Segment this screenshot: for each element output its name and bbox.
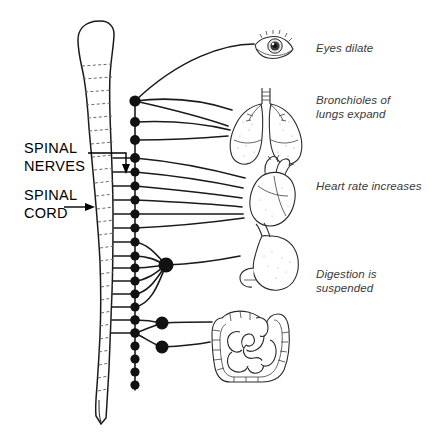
ganglion [130, 167, 139, 176]
lungs-label-line2: lungs expand [316, 108, 386, 120]
ganglion [130, 117, 140, 127]
nerve-to-eye [135, 44, 254, 101]
lungs-label-line1: Bronchioles of [316, 94, 392, 106]
ganglion [130, 302, 139, 311]
celiac-ganglion [159, 258, 174, 273]
nerve-to-intestine-b [162, 342, 210, 347]
nerve-to-heart-a [135, 158, 245, 178]
nerve-to-heart-d [135, 200, 242, 207]
ganglion [130, 315, 140, 325]
nerve-to-heart-b [135, 172, 243, 188]
stomach-label-line2: suspended [316, 282, 374, 294]
ganglion [130, 181, 139, 190]
ganglion [130, 237, 139, 246]
stomach-label-line1: Digestion is [316, 268, 377, 280]
spinal-nerves-label-line2: NERVES [24, 158, 85, 174]
ganglion [130, 354, 139, 363]
spinal-cord-arrowhead [85, 203, 95, 211]
heart-label: Heart rate increases [316, 180, 422, 192]
ganglion [130, 263, 139, 272]
ganglion [130, 223, 139, 232]
nerve-fibers [135, 44, 254, 347]
ganglion [130, 251, 139, 260]
nerve-to-intestine-a [162, 322, 212, 323]
ganglion [130, 328, 140, 338]
spinal-cord-label-line2: CORD [24, 205, 68, 221]
eye-label: Eyes dilate [316, 42, 373, 54]
anatomy-diagram: SPINAL NERVES SPINAL CORD Eyes dilate Br… [0, 0, 438, 434]
nerve-to-heart-c [135, 186, 242, 198]
vertebral-column [78, 21, 114, 424]
inferior-mesenteric-ganglion [156, 341, 169, 354]
stomach-icon [240, 223, 298, 290]
ganglion [130, 341, 139, 350]
heart-icon [250, 155, 295, 226]
ganglion [130, 135, 140, 145]
ganglion [130, 289, 139, 298]
superior-mesenteric-ganglion [156, 317, 169, 330]
lungs-icon [230, 88, 301, 164]
ganglion [130, 153, 140, 163]
ganglion [130, 380, 139, 389]
intestines-icon [212, 311, 289, 382]
spinal-nerves-label-line1: SPINAL [24, 140, 77, 156]
eye-icon [255, 30, 293, 58]
ganglion [130, 195, 139, 204]
nerve-to-heart-f [135, 218, 244, 228]
ganglion [130, 367, 139, 376]
diagram-canvas: SPINAL NERVES SPINAL CORD Eyes dilate Br… [0, 0, 438, 434]
nerve-to-lungs-d [135, 136, 228, 140]
ganglion [130, 276, 139, 285]
spinal-nerves-leader [88, 153, 126, 167]
nerve-to-stomach [166, 256, 240, 265]
ganglion [129, 95, 140, 106]
ganglion [130, 209, 139, 218]
spinal-cord-label-line1: SPINAL [24, 187, 77, 203]
